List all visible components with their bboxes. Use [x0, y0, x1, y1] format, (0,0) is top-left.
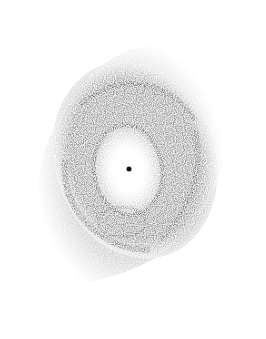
- nebula-image: [0, 0, 266, 339]
- central-star: [127, 167, 132, 172]
- nebula-graphic: [0, 0, 266, 339]
